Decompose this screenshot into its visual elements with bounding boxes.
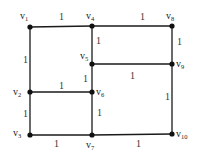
vertex-label-v10: v10 bbox=[176, 128, 188, 140]
vertex-label-v9: v9 bbox=[176, 58, 184, 70]
vertex-v4 bbox=[89, 23, 94, 28]
vertex-layer bbox=[27, 23, 174, 137]
vertex-label-v3: v3 bbox=[13, 127, 21, 139]
edge-weight-label: 1 bbox=[23, 54, 28, 65]
edge-layer bbox=[30, 26, 172, 135]
vertex-label-v5: v5 bbox=[80, 50, 88, 62]
edge-weight-label: 1 bbox=[136, 138, 141, 149]
vertex-label-v4: v4 bbox=[86, 10, 95, 22]
vertex-label-layer: v1v2v3v4v5v6v7v8v9v10 bbox=[13, 10, 188, 151]
vertex-label-v6: v6 bbox=[96, 86, 105, 98]
edge-weight-label: 1 bbox=[140, 11, 145, 22]
vertex-label-v7: v7 bbox=[86, 139, 95, 151]
edge-weight-label: 1 bbox=[23, 108, 28, 119]
edge-v7-v10 bbox=[92, 134, 172, 135]
vertex-v2 bbox=[27, 89, 32, 94]
vertex-v7 bbox=[89, 132, 94, 137]
vertex-v3 bbox=[27, 132, 32, 137]
vertex-v6 bbox=[89, 89, 94, 94]
edge-weight-label: 1 bbox=[130, 70, 135, 81]
vertex-v8 bbox=[169, 23, 174, 28]
edge-weight-label: 1 bbox=[83, 73, 88, 84]
weight-label-layer: 1111111111111 bbox=[23, 11, 182, 149]
edge-weight-label: 1 bbox=[59, 80, 64, 91]
graph-diagram: 1111111111111 v1v2v3v4v5v6v7v8v9v10 bbox=[0, 0, 198, 162]
edge-v1-v4 bbox=[30, 26, 92, 27]
vertex-v5 bbox=[89, 61, 94, 66]
edge-weight-label: 1 bbox=[97, 107, 102, 118]
edge-weight-label: 1 bbox=[177, 36, 182, 47]
vertex-label-v8: v8 bbox=[166, 10, 174, 22]
vertex-label-v1: v1 bbox=[20, 10, 28, 22]
edge-weight-label: 1 bbox=[54, 138, 59, 149]
edge-weight-label: 1 bbox=[59, 11, 64, 22]
edge-weight-label: 1 bbox=[165, 91, 170, 102]
edge-weight-label: 1 bbox=[96, 35, 101, 46]
vertex-v9 bbox=[169, 61, 174, 66]
vertex-v1 bbox=[27, 24, 32, 29]
vertex-label-v2: v2 bbox=[13, 86, 21, 98]
vertex-v10 bbox=[169, 131, 174, 136]
